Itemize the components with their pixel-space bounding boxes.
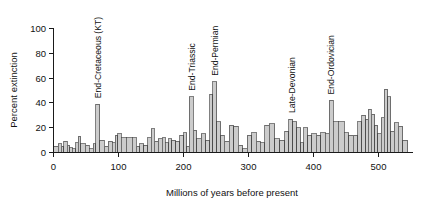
bar (64, 141, 67, 152)
bar (338, 122, 344, 153)
bar (108, 141, 112, 152)
bar (118, 134, 121, 153)
bar (301, 143, 304, 153)
bar (61, 146, 64, 152)
bar (329, 100, 333, 152)
bar (54, 146, 59, 152)
bar (187, 146, 190, 152)
bar (285, 131, 289, 152)
bar (58, 144, 61, 153)
y-tick-label: 40 (35, 97, 46, 108)
bar (378, 134, 381, 153)
bar (89, 149, 93, 153)
bar (260, 143, 265, 153)
bar (81, 144, 86, 153)
bar (394, 123, 398, 153)
bar (238, 145, 243, 152)
bar (362, 115, 366, 152)
y-tick-label: 80 (35, 48, 46, 59)
event-annotation-label: End-Triassic (187, 43, 197, 91)
x-tick-label: 100 (111, 161, 127, 172)
bar (371, 114, 374, 152)
bar (151, 129, 154, 153)
bar (67, 145, 70, 152)
bar (213, 82, 217, 153)
bar (403, 140, 408, 152)
bar (308, 135, 312, 152)
bar (96, 104, 100, 152)
bar (165, 143, 168, 153)
bar (333, 122, 338, 153)
bar (85, 145, 89, 152)
bar (289, 119, 293, 152)
bar (104, 146, 108, 152)
bar (384, 89, 387, 152)
bar (321, 133, 326, 153)
x-tick-label: 400 (306, 161, 322, 172)
event-annotation-label: End-Cretaceous (KT) (93, 17, 103, 98)
bar (391, 131, 394, 152)
bar (265, 125, 270, 152)
bar (78, 136, 81, 152)
event-annotation-label: End-Permian (210, 25, 220, 75)
bar (189, 97, 193, 153)
bar (398, 126, 403, 152)
bar (353, 135, 358, 152)
bar (375, 125, 378, 152)
bar (217, 122, 221, 153)
bar (93, 144, 96, 153)
bar (297, 128, 301, 153)
bar (100, 140, 105, 152)
bar (172, 140, 176, 152)
x-tick-label: 500 (371, 161, 387, 172)
y-tick-label: 60 (35, 73, 46, 84)
bar (140, 144, 144, 153)
bar (243, 149, 248, 153)
bar (280, 140, 285, 152)
event-annotation-label: Late-Devonian (287, 57, 297, 113)
bar (180, 135, 184, 152)
bar (121, 138, 126, 153)
bar (184, 133, 187, 153)
bar (388, 97, 391, 153)
y-tick-label: 0 (41, 147, 46, 158)
bar (252, 133, 257, 153)
y-tick-label: 100 (30, 23, 46, 34)
bar (234, 126, 239, 152)
bar (197, 139, 202, 153)
x-tick-label: 0 (51, 161, 56, 172)
bar (358, 122, 362, 153)
bar (325, 134, 329, 153)
bar (293, 122, 297, 153)
bar (256, 141, 260, 152)
bar (304, 128, 308, 153)
bar (224, 141, 229, 152)
bar (381, 118, 384, 153)
bar (115, 135, 118, 152)
bar (70, 148, 73, 153)
bar (312, 134, 317, 153)
bar (206, 140, 210, 152)
bar (210, 94, 213, 152)
bar (148, 138, 151, 153)
bar (368, 109, 371, 152)
bar (126, 138, 132, 153)
bar (76, 143, 79, 153)
bar (158, 139, 162, 153)
bar (221, 135, 225, 152)
y-axis-title: Percent extinction (8, 52, 19, 128)
bar (201, 134, 206, 153)
y-tick-label: 20 (35, 122, 46, 133)
extinction-intensity-chart: 0204060801000100200300400500 End-Cretace… (0, 0, 429, 206)
bar (193, 130, 196, 152)
bar (275, 139, 280, 153)
x-tick-label: 300 (241, 161, 257, 172)
bar (154, 141, 158, 152)
bar (316, 135, 321, 152)
bar (229, 125, 234, 152)
bar (344, 133, 349, 153)
bar (169, 139, 172, 153)
bar (72, 149, 75, 153)
bar (247, 135, 252, 152)
x-axis-title: Millions of years before present (166, 187, 298, 198)
